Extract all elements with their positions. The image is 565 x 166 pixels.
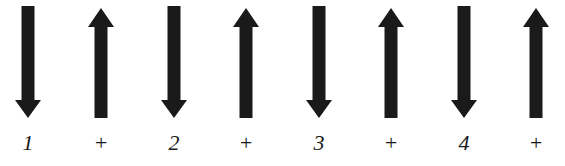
up-arrow-icon xyxy=(231,0,261,125)
down-arrow-icon xyxy=(159,0,189,125)
arrow-label-3: 2 xyxy=(159,130,189,156)
up-arrow-icon xyxy=(86,0,116,125)
down-arrow-icon xyxy=(449,0,479,125)
arrow-label-5: 3 xyxy=(304,130,334,156)
up-arrow-icon xyxy=(376,0,406,125)
down-arrow-icon xyxy=(13,0,43,125)
up-arrow-icon xyxy=(521,0,551,125)
arrow-label-7: 4 xyxy=(449,130,479,156)
arrow-label-4: + xyxy=(231,130,261,156)
down-arrow-icon xyxy=(304,0,334,125)
arrow-label-8: + xyxy=(521,130,551,156)
arrow-label-2: + xyxy=(86,130,116,156)
arrow-label-6: + xyxy=(376,130,406,156)
arrow-label-1: 1 xyxy=(13,130,43,156)
